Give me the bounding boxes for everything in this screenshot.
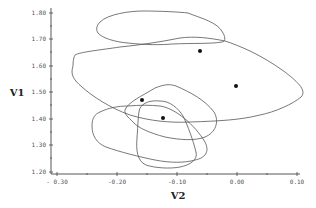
contour-lower-left: [92, 105, 207, 162]
svg-text:0.10: 0.10: [290, 178, 305, 185]
svg-text:- 0.30: - 0.30: [46, 178, 68, 185]
svg-text:0.00: 0.00: [230, 178, 245, 185]
svg-text:1.30: 1.30: [32, 141, 47, 148]
scatter-chart: 1.80 1.70 1.60 1.50 1.40 1.30 1.20 - 0.3…: [0, 0, 316, 208]
data-point: [161, 116, 165, 120]
svg-text:1.60: 1.60: [32, 62, 47, 69]
svg-text:1.40: 1.40: [32, 115, 47, 122]
x-tick-labels: - 0.30 -0.20 -0.10 0.00 0.10: [46, 178, 304, 185]
svg-text:-0.10: -0.10: [168, 178, 186, 185]
svg-text:-0.20: -0.20: [108, 178, 126, 185]
data-points: [140, 49, 238, 120]
svg-text:1.70: 1.70: [32, 35, 47, 42]
contour-mid: [125, 85, 217, 140]
data-point: [234, 84, 238, 88]
x-axis-title: V2: [170, 190, 186, 201]
svg-text:1.50: 1.50: [32, 88, 47, 95]
svg-text:1.80: 1.80: [32, 9, 47, 16]
y-axis-title: V1: [9, 87, 25, 98]
y-tick-labels: 1.80 1.70 1.60 1.50 1.40 1.30 1.20: [32, 9, 47, 175]
svg-text:1.20: 1.20: [32, 168, 47, 175]
data-point: [198, 49, 202, 53]
contours: [72, 11, 303, 168]
contour-top: [97, 11, 225, 45]
data-point: [140, 98, 144, 102]
